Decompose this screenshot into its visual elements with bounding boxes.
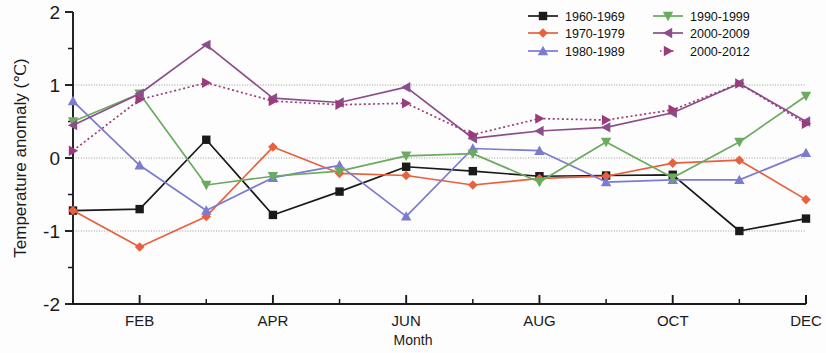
marker-triangle-down [201,181,211,190]
x-tick-label-DEC: DEC [790,312,822,329]
legend-label-2000-2009: 2000-2009 [690,27,750,41]
marker-square [802,214,810,222]
legend-label-1970-1979: 1970-1979 [565,27,625,41]
marker-diamond [735,155,745,165]
legend-item-1970-1979[interactable]: 1970-1979 [528,27,625,41]
x-tick-label-JUN: JUN [392,312,421,329]
marker-diamond [135,242,145,252]
x-tick-label-FEB: FEB [125,312,154,329]
series-line-2000-2012 [73,83,806,151]
y-tick-label-0: 0 [49,148,60,169]
x-tick-label-AUG: AUG [523,312,556,329]
legend-item-1990-1999[interactable]: 1990-1999 [653,10,750,24]
marker-triangle-right [402,98,411,108]
line-chart-svg: -2-1012FEBAPRJUNAUGOCTDECMonthTemperatur… [0,0,826,353]
marker-square [202,136,210,144]
marker-triangle-down [734,138,744,147]
marker-triangle-down [801,92,811,101]
y-tick-label-2: 2 [49,2,60,23]
marker-diamond [401,171,411,181]
marker-triangle-right [664,46,673,56]
marker-square [135,205,143,213]
y-axis-title: Temperature anomaly (℃) [11,58,30,257]
marker-square [539,12,547,20]
y-tick-label-1: 1 [49,75,60,96]
marker-square [269,211,277,219]
marker-triangle-left [401,82,410,92]
marker-square [402,163,410,171]
marker-triangle-left [663,28,672,38]
marker-diamond [538,28,548,38]
marker-triangle-up [801,148,811,157]
marker-triangle-down [534,178,544,187]
y-tick-label--2: -2 [43,294,60,315]
series-line-2000-2009 [73,45,806,138]
legend-label-1960-1969: 1960-1969 [565,10,625,24]
marker-diamond [801,195,811,205]
legend-label-2000-2012: 2000-2012 [690,45,750,59]
marker-triangle-right [202,78,211,88]
series-line-1970-1979 [73,147,806,247]
legend-item-2000-2009[interactable]: 2000-2009 [653,27,750,41]
marker-square [735,227,743,235]
marker-diamond [668,158,678,168]
marker-triangle-down [601,138,611,147]
x-axis-title: Month [394,332,433,348]
legend-item-1960-1969[interactable]: 1960-1969 [528,10,625,24]
marker-triangle-up [68,96,78,105]
series-1960-1969 [69,136,810,236]
y-tick-label--1: -1 [43,221,60,242]
legend-item-1980-1989[interactable]: 1980-1989 [528,45,625,59]
series-2000-2012 [69,78,811,156]
marker-triangle-up [201,205,211,214]
legend-item-2000-2012[interactable]: 2000-2012 [660,45,750,59]
legend: 1960-19691970-19791980-19891990-19992000… [528,10,750,59]
legend-label-1990-1999: 1990-1999 [690,10,750,24]
marker-square [335,187,343,195]
marker-triangle-right [535,113,544,123]
chart-figure: -2-1012FEBAPRJUNAUGOCTDECMonthTemperatur… [0,0,826,353]
legend-label-1980-1989: 1980-1989 [565,45,625,59]
x-tick-label-OCT: OCT [657,312,689,329]
series-1990-1999 [68,90,811,191]
x-tick-label-APR: APR [257,312,288,329]
marker-square [469,167,477,175]
marker-triangle-left [534,126,543,136]
marker-diamond [468,180,478,190]
series-line-1990-1999 [73,94,806,185]
